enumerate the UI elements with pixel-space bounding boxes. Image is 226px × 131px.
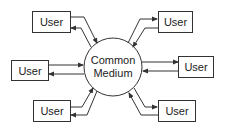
- user-node-mid-left: User: [12, 61, 49, 81]
- arrow-medium-to-user: [71, 28, 91, 47]
- user-node-top-left: User: [33, 12, 71, 33]
- user-label: User: [184, 61, 208, 73]
- diagram-canvas: Common Medium User User User User User U…: [0, 0, 226, 131]
- user-label: User: [40, 16, 64, 28]
- arrow-user-to-medium: [133, 28, 158, 47]
- user-label: User: [164, 16, 188, 28]
- user-node-bottom-left: User: [34, 101, 71, 122]
- arrow-user-to-medium: [70, 17, 97, 43]
- user-node-top-right: User: [159, 12, 193, 33]
- arrow-medium-to-user: [134, 88, 157, 107]
- user-label: User: [165, 105, 189, 117]
- common-medium-label-line2: Medium: [93, 67, 132, 79]
- common-medium-label-line1: Common: [91, 54, 136, 66]
- user-node-bottom-right: User: [159, 101, 196, 122]
- user-node-mid-right: User: [179, 57, 214, 78]
- arrow-user-to-medium: [70, 88, 93, 107]
- user-label: User: [18, 65, 42, 77]
- user-label: User: [40, 105, 64, 117]
- arrow-medium-to-user: [128, 19, 157, 43]
